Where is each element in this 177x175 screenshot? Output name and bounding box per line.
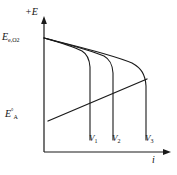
y-axis [41,16,47,152]
curve-cathodic-v1 [44,38,90,140]
label-equilibrium-oxygen-potential: Ee,O2 [2,32,20,42]
plot-canvas [0,0,177,175]
label-v1: V1 [89,134,98,143]
line-anodic-dissolution [48,79,147,121]
label-standard-anodic-potential: E°A [5,108,18,119]
label-v2: V2 [112,134,121,143]
label-v3: V3 [145,134,154,143]
polarization-diagram-figure: +E Ee,O2 E°A V1 V2 V3 i [0,0,177,175]
curve-cathodic-v3 [44,38,146,140]
y-axis-label: +E [25,7,38,17]
x-axis-label: i [152,155,155,165]
